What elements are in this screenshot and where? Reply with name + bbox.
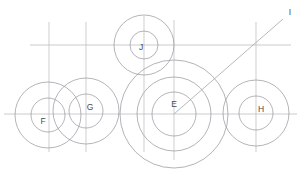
- label-i: I: [289, 7, 291, 17]
- drawing-canvas: FGEHJI: [0, 0, 301, 176]
- label-f: F: [40, 116, 45, 126]
- circle-groups: [15, 15, 289, 168]
- circle-group-f: [15, 82, 81, 148]
- label-h: H: [258, 104, 264, 114]
- circle-f-r0: [31, 98, 65, 132]
- construction-drawing-svg: FGEHJI: [0, 0, 301, 176]
- label-e: E: [171, 99, 177, 109]
- vertical-construction-lines: [49, 16, 256, 160]
- label-j: J: [139, 42, 143, 52]
- circle-f-r1: [15, 82, 81, 148]
- label-g: G: [87, 102, 94, 112]
- node-labels: FGEHJI: [40, 7, 291, 126]
- horizontal-construction-lines: [4, 45, 297, 114]
